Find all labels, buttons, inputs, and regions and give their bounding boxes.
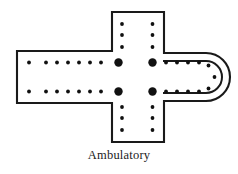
crossing-pier-marker (148, 87, 156, 95)
pier-marker (151, 128, 155, 132)
crossing-pier-marker (114, 58, 122, 66)
pier-marker (120, 116, 124, 120)
ambulatory-floor-plan-figure: Ambulatory (0, 0, 238, 174)
pier-marker (120, 22, 124, 26)
crossing-pier-marker (148, 58, 156, 66)
pier-marker (66, 90, 70, 94)
pier-marker (151, 45, 155, 49)
pier-marker (88, 61, 92, 65)
pier-marker (186, 61, 190, 65)
pier-marker (175, 90, 179, 94)
pier-marker (197, 61, 201, 65)
pier-marker (197, 90, 201, 94)
pier-marker (164, 61, 168, 65)
pier-marker (207, 87, 211, 91)
pier-marker (99, 61, 103, 65)
pier-marker (164, 90, 168, 94)
pier-marker (175, 61, 179, 65)
pier-marker (77, 90, 81, 94)
pier-marker (120, 45, 124, 49)
pier-marker (207, 64, 211, 68)
pier-marker (27, 90, 31, 94)
pier-marker (99, 90, 103, 94)
pier-marker (213, 75, 217, 79)
pier-marker (186, 90, 190, 94)
pier-marker (55, 90, 59, 94)
pier-marker (151, 22, 155, 26)
pier-marker (44, 61, 48, 65)
pier-marker (27, 61, 31, 65)
pier-marker (120, 33, 124, 37)
pier-marker (77, 61, 81, 65)
pier-marker (44, 90, 48, 94)
crossing-pier-marker (114, 87, 122, 95)
pier-marker (120, 128, 124, 132)
pier-marker (66, 61, 70, 65)
pier-marker (151, 33, 155, 37)
figure-caption: Ambulatory (0, 148, 238, 162)
pier-marker (151, 116, 155, 120)
pier-marker (88, 90, 92, 94)
pier-marker (120, 105, 124, 109)
pier-marker (151, 105, 155, 109)
pier-marker (55, 61, 59, 65)
